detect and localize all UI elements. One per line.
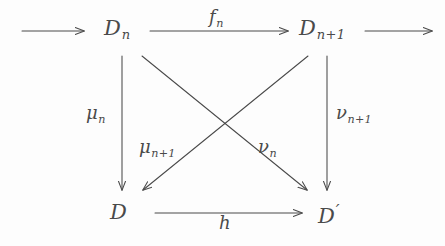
- edge-label-mu-n-plus-1-subscript: n+1: [151, 147, 176, 160]
- arrow-mu-n-plus-1: [143, 56, 308, 190]
- node-d-base: D: [110, 200, 127, 224]
- edge-label-h: h: [219, 214, 231, 232]
- edge-label-mu-n-subscript: n: [98, 113, 106, 126]
- edge-label-nu-n-plus-1: νn+1: [336, 104, 372, 125]
- node-d-prime: D′: [318, 202, 340, 227]
- edge-label-f-n: fn: [209, 8, 224, 29]
- arrow-nu-n: [142, 56, 307, 190]
- diagram-arrows-canvas: [0, 0, 445, 246]
- node-d-prime-mark: ′: [335, 200, 340, 220]
- edge-label-nu-n-plus-1-base: ν: [336, 102, 347, 123]
- node-d: D: [110, 202, 127, 223]
- edge-label-mu-n-base: μ: [86, 102, 98, 123]
- edge-label-nu-n: νn: [258, 138, 277, 159]
- edge-label-f-n-base: f: [209, 6, 216, 27]
- commutative-diagram: Dn Dn+1 D D′ fn μn νn+1 μn+1 νn h: [0, 0, 445, 246]
- node-d-prime-base: D: [318, 204, 335, 228]
- edge-label-nu-n-plus-1-subscript: n+1: [347, 113, 372, 126]
- edge-label-nu-n-base: ν: [258, 136, 269, 157]
- edge-label-mu-n: μn: [86, 104, 106, 125]
- edge-label-h-base: h: [219, 212, 231, 233]
- node-d-n-base: D: [104, 16, 121, 40]
- node-d-n-plus-1: Dn+1: [299, 18, 345, 41]
- node-d-n-plus-1-subscript: n+1: [316, 27, 345, 42]
- node-d-n-plus-1-base: D: [299, 16, 316, 40]
- node-d-n-subscript: n: [121, 27, 130, 42]
- node-d-n: Dn: [104, 18, 131, 41]
- edge-label-nu-n-subscript: n: [269, 147, 277, 160]
- edge-label-f-n-subscript: n: [216, 17, 224, 30]
- edge-label-mu-n-plus-1: μn+1: [139, 138, 176, 159]
- edge-label-mu-n-plus-1-base: μ: [139, 136, 151, 157]
